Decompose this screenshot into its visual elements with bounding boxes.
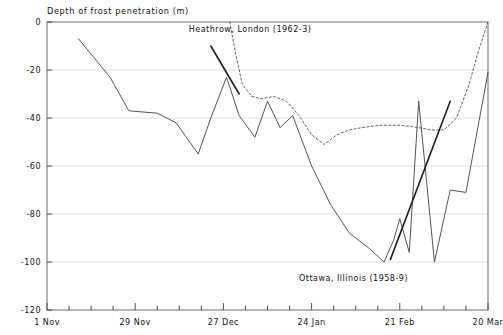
chart-canvas: Depth of frost penetration (m) 0-20-40-6… xyxy=(0,0,503,335)
y-tick-label: -100 xyxy=(21,258,41,267)
x-tick-label: 24 Jan xyxy=(298,318,326,327)
frost-penetration-chart: Depth of frost penetration (m) 0-20-40-6… xyxy=(0,0,503,335)
series-line-ottawa xyxy=(79,39,489,262)
y-tick-label: -120 xyxy=(21,306,41,315)
y-tick-label: -60 xyxy=(26,162,41,171)
y-tick-label: 0 xyxy=(35,18,41,27)
annotations-group: Heathrow, London (1962-3)Ottawa, Illinoi… xyxy=(189,25,450,284)
x-axis-ticks xyxy=(47,303,488,310)
heathrow-label: Heathrow, London (1962-3) xyxy=(189,25,312,34)
x-tick-label: 29 Nov xyxy=(120,318,151,327)
y-tick-label: -80 xyxy=(26,210,41,219)
y-axis-ticks xyxy=(47,22,52,310)
data-series-group xyxy=(79,22,489,262)
x-tick-label: 20 Mar xyxy=(473,318,503,327)
x-tick-label: 27 Dec xyxy=(208,318,239,327)
series-line-heathrow xyxy=(230,22,488,144)
x-tick-label: 21 Feb xyxy=(385,318,415,327)
gridlines xyxy=(47,70,488,262)
ottawa-label: Ottawa, Illinois (1958-9) xyxy=(299,274,408,283)
y-tick-label: -40 xyxy=(26,114,41,123)
chart-title: Depth of frost penetration (m) xyxy=(47,6,189,16)
y-tick-label: -20 xyxy=(26,66,41,75)
x-tick-label: 1 Nov xyxy=(34,318,60,327)
x-axis-tick-labels: 1 Nov29 Nov27 Dec24 Jan21 Feb20 Mar xyxy=(34,318,503,327)
y-axis-tick-labels: 0-20-40-60-80-100-120 xyxy=(21,18,41,315)
